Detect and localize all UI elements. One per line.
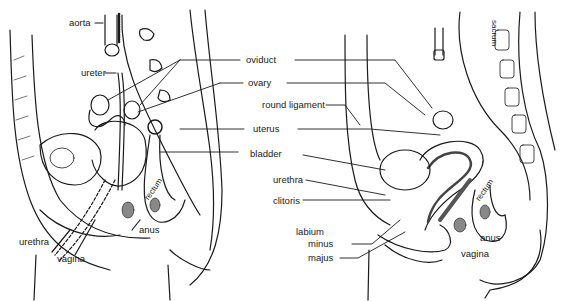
- label-anus-left: anus: [139, 224, 160, 235]
- label-aorta: aorta: [69, 17, 91, 28]
- label-vagina-left: vagina: [57, 253, 85, 264]
- label-ureter: ureter: [81, 67, 106, 78]
- label-anus-right: anus: [480, 232, 501, 243]
- label-labium: labium: [296, 226, 324, 237]
- label-oviduct: oviduct: [246, 54, 276, 65]
- label-round-ligament: round ligament: [262, 99, 325, 110]
- label-labium-minus: minus: [308, 238, 333, 249]
- label-urethra-left: urethra: [19, 236, 49, 247]
- label-sacrum: sacrum: [489, 20, 500, 46]
- right-pelvis-drawing: [345, 12, 555, 300]
- left-pelvis-drawing: [10, 10, 222, 300]
- label-vagina-right: vagina: [461, 248, 489, 259]
- label-ovary: ovary: [248, 77, 271, 88]
- label-labium-majus: majus: [308, 252, 333, 263]
- label-clitoris: clitoris: [273, 195, 300, 206]
- label-uterus: uterus: [253, 123, 279, 134]
- label-urethra: urethra: [273, 174, 303, 185]
- label-bladder: bladder: [250, 148, 282, 159]
